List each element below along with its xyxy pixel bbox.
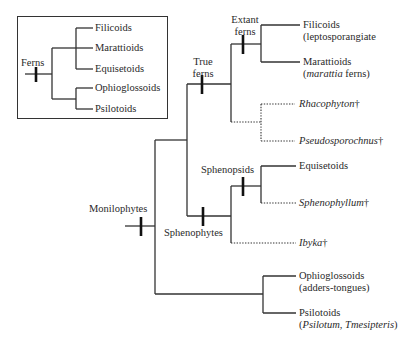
node-label-extant-ferns-line1: Extant (228, 14, 262, 26)
leaf-sphenophyllum: Sphenophyllum† (299, 197, 369, 209)
leaf-marattioids-name: Marattioids (303, 56, 370, 68)
node-label-extant-ferns-line2: ferns (228, 26, 262, 38)
leaf-rhacophyton-name: Rhacophyton (299, 98, 354, 109)
leaf-sphenophyllum-name: Sphenophyllum (299, 197, 364, 208)
leaf-ibyka-name: Ibyka (299, 237, 322, 248)
leaf-pseudosporochnus: Pseudosporochnus† (299, 135, 383, 147)
paren-close: ) (394, 319, 398, 330)
inset-leaf-equisetoids: Equisetoids (95, 63, 144, 75)
leaf-psilotoids: Psilotoids (Psilotum, Tmesipteris) (299, 307, 398, 331)
leaf-equisetoids: Equisetoids (299, 160, 348, 172)
dagger-extinct-icon: † (354, 98, 359, 109)
leaf-filicoids: Filicoids (leptosporangiate (303, 19, 376, 43)
leaf-marattioids-rest: ferns) (343, 68, 370, 79)
leaf-filicoids-sub: (leptosporangiate (303, 31, 376, 43)
node-label-true-ferns-line2: ferns (186, 68, 220, 80)
leaf-marattioids: Marattioids (marattia ferns) (303, 56, 370, 80)
node-label-true-ferns-line1: True (186, 56, 220, 68)
dagger-extinct-icon: † (364, 197, 369, 208)
leaf-rhacophyton: Rhacophyton† (299, 98, 360, 110)
leaf-ibyka: Ibyka† (299, 237, 328, 249)
node-label-true-ferns: True ferns (186, 56, 220, 80)
dagger-extinct-icon: † (378, 135, 383, 146)
leaf-ophioglossoids: Ophioglossoids (adders-tongues) (299, 270, 370, 294)
inset-leaf-filicoids: Filicoids (95, 22, 132, 34)
dagger-extinct-icon: † (322, 237, 327, 248)
leaf-psilotoids-name: Psilotoids (299, 307, 398, 319)
inset-leaf-ophioglossoids: Ophioglossoids (95, 82, 160, 94)
leaf-marattioids-genus: marattia (307, 68, 343, 79)
inset-leaf-marattioids: Marattioids (95, 42, 143, 54)
leaf-ophioglossoids-sub: (adders-tongues) (299, 282, 370, 294)
inset-root-label: Ferns (21, 57, 44, 69)
leaf-ophioglossoids-name: Ophioglossoids (299, 270, 370, 282)
leaf-marattioids-sub: (marattia ferns) (303, 68, 370, 80)
node-label-sphenopsids: Sphenopsids (201, 164, 254, 176)
leaf-filicoids-name: Filicoids (303, 19, 376, 31)
leaf-psilotoids-genera: Psilotum, Tmesipteris (303, 319, 395, 330)
leaf-psilotoids-sub: (Psilotum, Tmesipteris) (299, 319, 398, 331)
inset-leaf-psilotoids: Psilotoids (95, 103, 136, 115)
node-label-sphenophytes: Sphenophytes (164, 227, 223, 239)
node-label-extant-ferns: Extant ferns (228, 14, 262, 38)
leaf-pseudosporochnus-name: Pseudosporochnus (299, 135, 378, 146)
node-label-monilophytes: Monilophytes (89, 203, 147, 215)
